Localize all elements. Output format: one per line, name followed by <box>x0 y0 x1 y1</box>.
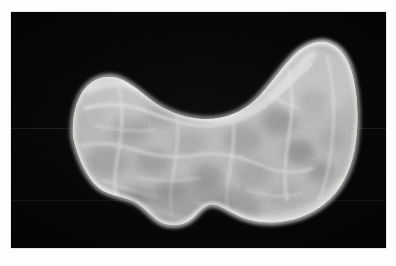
figure-root <box>0 0 396 266</box>
specimen-image <box>11 12 386 248</box>
photograph-plate <box>11 12 386 248</box>
right-lobe-highlight <box>265 48 357 116</box>
specimen-layer <box>11 12 386 248</box>
figure-caption <box>11 250 386 264</box>
